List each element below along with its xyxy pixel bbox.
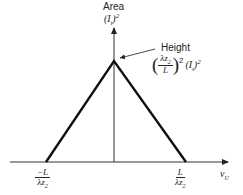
height-outer-exp: 2	[179, 56, 183, 65]
height-label: Height	[161, 43, 190, 53]
left-tick-den: λz2	[37, 178, 47, 189]
height-fraction-den: L	[163, 66, 168, 76]
height-factor: (It)2	[186, 58, 201, 72]
triangle-function	[46, 61, 186, 162]
y-axis-label-intensity: (It)2	[104, 13, 119, 26]
height-fraction: λz2 L	[158, 54, 172, 76]
y-label-open: (I	[104, 13, 111, 24]
height-formula: ( λz2 L ) 2 (It)2	[152, 54, 201, 76]
right-tick-den: λz2	[175, 178, 185, 189]
plot-canvas	[0, 0, 243, 195]
y-axis-label-area: Area	[103, 2, 124, 12]
height-leader-arrow	[120, 49, 155, 58]
left-tick-label: −L λz2	[35, 168, 50, 190]
y-label-exp: 2	[116, 12, 120, 20]
right-tick-label: L λz2	[175, 168, 185, 190]
x-axis-label: νU	[220, 169, 229, 181]
